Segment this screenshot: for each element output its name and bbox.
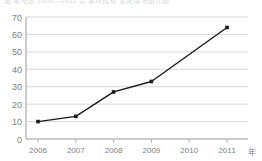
- data-point-marker: [36, 120, 40, 124]
- chart-figure: 图 某地区 2006—2011 年 某项指标 变化情况统计图: [0, 0, 262, 161]
- x-axis-labels: 2006 2007 2008 2009 2010 2011: [29, 146, 236, 155]
- ytick-label-70: 70: [12, 13, 22, 23]
- data-point-marker: [112, 90, 116, 94]
- ytick-label-30: 30: [12, 82, 22, 92]
- xtick-label-2011: 2011: [218, 146, 236, 155]
- ytick-label-50: 50: [12, 47, 22, 57]
- plot-background: [26, 17, 248, 139]
- x-axis-unit-label: 年: [248, 147, 256, 157]
- xtick-label-2009: 2009: [143, 146, 161, 155]
- xtick-label-2008: 2008: [105, 146, 123, 155]
- ytick-label-0: 0: [17, 135, 22, 145]
- x-axis-ticks: [38, 139, 227, 143]
- ytick-label-10: 10: [12, 117, 22, 127]
- ytick-label-60: 60: [12, 30, 22, 40]
- ytick-label-40: 40: [12, 65, 22, 75]
- line-chart: 70 60 50 40 30 20 10 0 2006 2007 2008 20…: [0, 0, 262, 161]
- xtick-label-2006: 2006: [29, 146, 47, 155]
- data-point-marker: [225, 26, 229, 30]
- data-point-marker: [150, 80, 154, 84]
- xtick-label-2007: 2007: [67, 146, 85, 155]
- y-axis-labels: 70 60 50 40 30 20 10 0: [12, 13, 22, 145]
- ytick-label-20: 20: [12, 100, 22, 110]
- data-point-marker: [74, 115, 78, 119]
- xtick-label-2010: 2010: [180, 146, 198, 155]
